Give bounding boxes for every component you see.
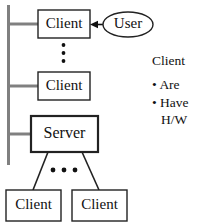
notes-title: Client: [152, 52, 210, 69]
notes-list: • Are • Have H/W: [152, 76, 210, 128]
node-client-second-label: Client: [46, 77, 83, 93]
server-to-client-left-link: [33, 152, 48, 190]
notes-item: • Have H/W: [152, 94, 210, 128]
notes-panel: Client • Are • Have H/W: [152, 52, 210, 129]
bullet-icon: •: [152, 77, 157, 92]
vertical-ellipsis-dot: [62, 59, 66, 63]
vertical-ellipsis-dot: [62, 43, 66, 47]
diagram-figure: Client User Client Server Client Client: [0, 0, 210, 224]
notes-item-continuation: H/W: [152, 111, 210, 128]
horizontal-ellipsis-dot: [62, 168, 67, 173]
node-client-bottom-left-label: Client: [15, 196, 52, 212]
user-to-client-arrowhead: [90, 21, 98, 28]
notes-item-row: • Have: [152, 94, 210, 111]
server-to-client-right-link: [82, 152, 99, 190]
horizontal-ellipsis-dot: [51, 168, 56, 173]
notes-item: • Are: [152, 76, 210, 93]
bullet-icon: •: [152, 95, 157, 110]
node-client-bottom-right-label: Client: [81, 196, 118, 212]
node-server-label: Server: [44, 124, 86, 141]
node-user-label: User: [114, 15, 142, 31]
horizontal-ellipsis-dot: [73, 168, 78, 173]
vertical-ellipsis-dot: [62, 51, 66, 55]
node-client-top-label: Client: [46, 15, 83, 31]
notes-item-text: Have: [160, 95, 188, 110]
notes-item-row: • Are: [152, 76, 210, 93]
notes-item-text: Are: [159, 77, 179, 92]
